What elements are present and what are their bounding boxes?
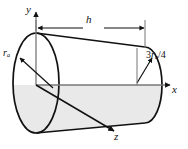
- right-radius-label: 3ra/4: [146, 50, 166, 60]
- right-radius-denominator: 4: [161, 49, 166, 60]
- z-axis-label: z: [114, 131, 118, 142]
- frustum-diagram-svg: [0, 0, 188, 149]
- figure-container: y x z h ra 3ra/4: [0, 0, 188, 149]
- left-radius-label: ra: [3, 48, 10, 58]
- x-axis-label: x: [172, 84, 177, 95]
- height-dimension-label: h: [86, 14, 92, 25]
- frustum-shading: [13, 85, 162, 133]
- frustum-upper-edge: [36, 33, 145, 47]
- ra34-leader-line: [137, 58, 152, 83]
- y-axis-label: y: [26, 4, 31, 15]
- left-radius-subscript: a: [7, 51, 10, 58]
